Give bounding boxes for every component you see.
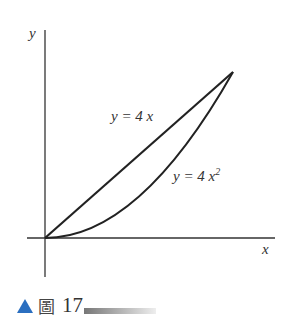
x-axis-label: x bbox=[262, 241, 269, 258]
figure-prefix: 圖 bbox=[38, 293, 55, 318]
line-y-4x bbox=[45, 72, 233, 238]
line-label: y = 4 x bbox=[111, 108, 153, 125]
parabola-label: y = 4 x2 bbox=[173, 166, 220, 185]
y-axis-label: y bbox=[29, 25, 36, 42]
figure-caption: 圖 17 bbox=[17, 293, 156, 318]
blue-triangle-icon bbox=[17, 299, 33, 313]
parabola-label-exponent: 2 bbox=[215, 166, 220, 177]
figure-number: 17 bbox=[62, 293, 83, 318]
parabola-label-base: y = 4 x bbox=[173, 168, 215, 184]
chart-plot-area bbox=[0, 0, 295, 328]
caption-gradient-bar bbox=[84, 308, 156, 314]
